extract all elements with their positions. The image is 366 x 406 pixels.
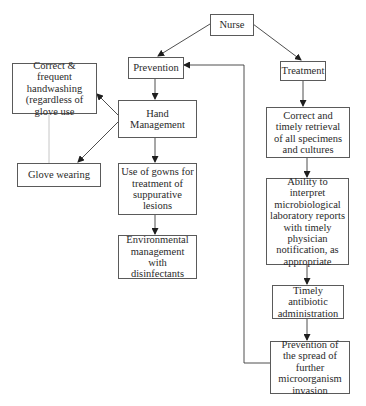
node-prevention-label: Prevention [133,62,179,73]
flowchart-canvas: Nurse Prevention Treatment Hand Manageme… [0,0,366,406]
node-hand-management: Hand Management [118,100,197,138]
node-treatment: Treatment [280,61,326,81]
node-glove-wearing: Glove wearing [17,163,101,187]
node-handwashing-label: Correct & frequent handwashing (regardle… [16,60,93,117]
node-spread: Prevention of the spread of further micr… [270,341,350,394]
edge-hand-glove [78,122,118,162]
node-glove-wearing-label: Glove wearing [28,169,90,180]
node-retrieval-label: Correct and timely retrieval of all spec… [271,110,345,156]
node-antibiotic-label: Timely antibiotic administration [275,285,341,319]
node-interpret: Ability to interpret microbiological lab… [266,178,349,265]
node-hand-management-label: Hand Management [130,108,185,131]
node-nurse: Nurse [210,14,254,36]
edge-hand-handwashing [97,94,118,115]
node-gowns: Use of gowns for treatment of suppurativ… [118,163,197,215]
node-spread-label: Prevention of the spread of further micr… [274,339,346,396]
node-environmental-label: Environmental management with disinfecta… [121,234,194,280]
node-retrieval: Correct and timely retrieval of all spec… [266,107,350,158]
edge-nurse-treatment [253,24,301,60]
node-nurse-label: Nurse [219,19,244,30]
edge-nurse-prevention [158,24,210,56]
node-handwashing: Correct & frequent handwashing (regardle… [12,63,97,114]
faded-caption [40,393,330,405]
node-environmental: Environmental management with disinfecta… [118,235,197,279]
node-treatment-label: Treatment [282,65,325,76]
node-antibiotic: Timely antibiotic administration [272,285,344,319]
node-interpret-label: Ability to interpret microbiological lab… [269,176,346,267]
node-gowns-label: Use of gowns for treatment of suppurativ… [121,166,194,212]
node-prevention: Prevention [128,57,184,79]
